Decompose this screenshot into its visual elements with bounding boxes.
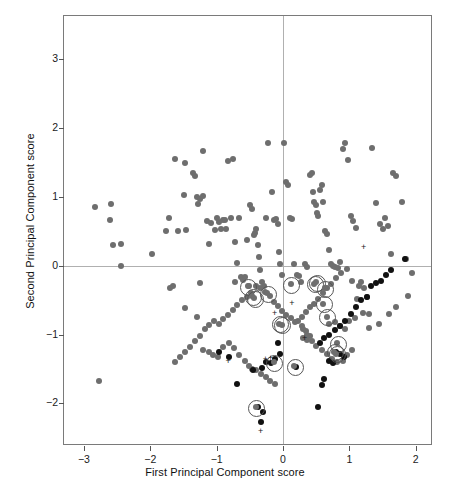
data-point bbox=[232, 279, 238, 285]
data-point bbox=[358, 297, 364, 303]
data-point bbox=[182, 305, 188, 311]
data-point bbox=[324, 314, 330, 320]
data-point bbox=[326, 332, 332, 338]
data-point bbox=[234, 260, 240, 266]
data-point bbox=[108, 201, 114, 207]
data-point bbox=[338, 270, 344, 276]
data-point bbox=[177, 354, 183, 360]
data-point bbox=[366, 325, 372, 331]
x-tick bbox=[150, 446, 151, 451]
data-point bbox=[383, 272, 389, 278]
data-point bbox=[332, 327, 338, 333]
data-point bbox=[315, 213, 321, 219]
data-point bbox=[107, 217, 113, 223]
x-tick bbox=[84, 446, 85, 451]
data-point bbox=[200, 148, 206, 154]
y-tick-label: 3 bbox=[42, 52, 58, 64]
data-point bbox=[257, 267, 263, 273]
data-point bbox=[324, 231, 330, 237]
data-point bbox=[369, 145, 375, 151]
data-point bbox=[216, 349, 222, 355]
scatter-plot-figure: ++++++++ −3−2−1012 −2−10123 First Princi… bbox=[0, 0, 450, 495]
data-point-plus: + bbox=[268, 354, 273, 363]
data-point bbox=[310, 189, 316, 195]
y-tick-label: 1 bbox=[42, 190, 58, 202]
data-point bbox=[118, 241, 124, 247]
data-point bbox=[256, 254, 262, 260]
x-tick bbox=[217, 446, 218, 451]
data-point-plus: + bbox=[302, 334, 307, 343]
data-point bbox=[197, 280, 203, 286]
data-point bbox=[197, 333, 203, 339]
y-tick bbox=[59, 59, 64, 60]
data-point bbox=[319, 382, 325, 388]
data-point bbox=[281, 140, 287, 146]
x-tick-label: −2 bbox=[135, 453, 165, 465]
data-point bbox=[360, 310, 366, 316]
data-point bbox=[385, 223, 391, 229]
data-point bbox=[230, 307, 236, 313]
data-point bbox=[187, 344, 193, 350]
data-point bbox=[317, 340, 323, 346]
data-point bbox=[342, 326, 348, 332]
data-point bbox=[361, 285, 367, 291]
data-point bbox=[194, 314, 200, 320]
data-point bbox=[263, 215, 269, 221]
data-point bbox=[149, 251, 155, 257]
data-point bbox=[182, 160, 188, 166]
data-point bbox=[181, 192, 187, 198]
data-point bbox=[353, 304, 359, 310]
data-point bbox=[368, 283, 374, 289]
data-point bbox=[172, 359, 178, 365]
data-point bbox=[226, 340, 232, 346]
x-axis-label: First Principal Component score bbox=[0, 466, 450, 478]
data-point bbox=[234, 381, 240, 387]
x-tick-label: 1 bbox=[334, 453, 364, 465]
vertical-zero-reference-line bbox=[283, 16, 284, 444]
data-point bbox=[289, 216, 295, 222]
data-point bbox=[206, 241, 212, 247]
data-point bbox=[315, 404, 321, 410]
data-point bbox=[265, 140, 271, 146]
data-point bbox=[239, 297, 245, 303]
data-point bbox=[118, 263, 124, 269]
data-point bbox=[388, 267, 394, 273]
data-point bbox=[344, 266, 350, 272]
data-point bbox=[183, 227, 189, 233]
data-point-plus: + bbox=[361, 243, 366, 252]
y-tick-label: 0 bbox=[42, 259, 58, 271]
data-point bbox=[236, 352, 242, 358]
data-point bbox=[269, 189, 275, 195]
y-tick bbox=[59, 403, 64, 404]
data-point bbox=[211, 318, 217, 324]
data-point bbox=[320, 199, 326, 205]
data-point bbox=[304, 264, 310, 270]
data-point bbox=[228, 215, 234, 221]
data-point bbox=[373, 200, 379, 206]
x-tick bbox=[283, 446, 284, 451]
data-point bbox=[249, 206, 255, 212]
data-point bbox=[192, 173, 198, 179]
y-tick bbox=[59, 128, 64, 129]
data-point bbox=[321, 376, 327, 382]
data-point bbox=[319, 182, 325, 188]
data-point bbox=[409, 270, 415, 276]
data-point bbox=[382, 215, 388, 221]
data-point bbox=[393, 173, 399, 179]
data-point bbox=[255, 242, 261, 248]
y-tick-label: 2 bbox=[42, 121, 58, 133]
data-point bbox=[244, 237, 250, 243]
data-point bbox=[345, 157, 351, 163]
y-tick bbox=[59, 335, 64, 336]
data-point bbox=[378, 278, 384, 284]
data-point bbox=[208, 220, 214, 226]
y-tick-label: −1 bbox=[42, 328, 58, 340]
data-point bbox=[393, 304, 399, 310]
y-tick bbox=[59, 266, 64, 267]
data-point bbox=[192, 338, 198, 344]
data-point bbox=[200, 193, 206, 199]
x-tick bbox=[416, 446, 417, 451]
data-point bbox=[364, 294, 370, 300]
data-point bbox=[259, 365, 265, 371]
data-point bbox=[223, 226, 229, 232]
